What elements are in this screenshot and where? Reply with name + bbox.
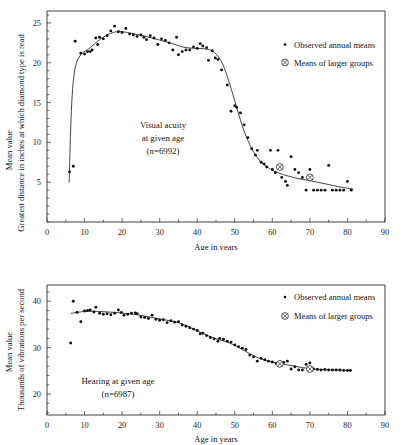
x-tick-label: 20 — [118, 228, 126, 237]
data-point — [126, 313, 129, 316]
data-point — [188, 49, 191, 52]
data-point — [252, 356, 255, 359]
data-point — [222, 338, 225, 341]
data-point — [139, 33, 142, 36]
group-mean-marker — [306, 366, 313, 373]
data-point — [181, 323, 184, 326]
data-point — [123, 314, 126, 317]
data-point — [213, 337, 216, 340]
x-tick-label: 40 — [193, 421, 201, 430]
legend-observed-label-2: Observed annual means — [294, 292, 375, 302]
data-point — [293, 168, 296, 171]
legend-dot-icon-2 — [284, 296, 287, 299]
data-point — [243, 123, 246, 126]
data-point — [199, 42, 202, 45]
annotation-1: Visual acuity at given age (n=6992) — [140, 120, 187, 156]
data-point — [98, 312, 101, 315]
data-point — [235, 106, 238, 109]
data-point — [158, 319, 161, 322]
data-point — [207, 59, 210, 62]
data-point — [308, 362, 311, 365]
data-point — [323, 189, 326, 192]
x-tick-label: 30 — [156, 421, 164, 430]
data-point — [260, 161, 263, 164]
data-point — [86, 309, 89, 312]
data-point — [226, 340, 229, 343]
data-point — [331, 189, 334, 192]
data-point — [320, 189, 323, 192]
fitted-curve-path — [69, 32, 353, 189]
x-tick-label: 60 — [268, 421, 276, 430]
data-point — [301, 176, 304, 179]
hearing-chart-svg: Mean value Thousands of vibrations per s… — [0, 250, 416, 445]
data-point — [166, 321, 169, 324]
data-point — [162, 318, 165, 321]
data-point — [109, 29, 112, 32]
data-point — [308, 168, 311, 171]
data-point — [171, 49, 174, 52]
data-point — [216, 58, 219, 61]
data-point — [209, 336, 212, 339]
data-point — [76, 311, 79, 314]
data-point — [139, 316, 142, 319]
legend-2: Observed annual means Means of larger gr… — [282, 292, 376, 321]
x-tick-label: 50 — [231, 421, 239, 430]
data-point — [175, 36, 178, 39]
fitted-curve-1 — [69, 32, 353, 189]
x-tick-label: 80 — [343, 421, 351, 430]
data-point — [96, 43, 99, 46]
y-tick-label: 20 — [33, 390, 41, 399]
data-point — [271, 361, 274, 364]
data-point — [274, 171, 277, 174]
data-point — [305, 363, 308, 366]
data-point — [220, 68, 223, 71]
y-axis-outer-title-2: Mean value — [4, 332, 14, 373]
data-point — [72, 300, 75, 303]
data-point — [320, 369, 323, 372]
data-point — [237, 345, 240, 348]
data-point — [124, 27, 127, 30]
data-point — [239, 111, 242, 114]
x-tick-label: 0 — [45, 421, 49, 430]
x-tick-label: 80 — [343, 228, 351, 237]
data-point — [327, 164, 330, 167]
data-point — [342, 369, 345, 372]
x-tick-label: 40 — [193, 228, 201, 237]
data-point — [216, 340, 219, 343]
group-mean-marker — [276, 361, 283, 368]
data-point — [143, 316, 146, 319]
data-point — [297, 369, 300, 372]
data-point — [74, 40, 77, 43]
data-point — [331, 369, 334, 372]
data-point — [164, 39, 167, 42]
data-point — [121, 31, 124, 34]
x-tick-label: 70 — [306, 421, 314, 430]
data-point — [246, 136, 249, 139]
y-axis-inner-title-2: Thousands of vibrations per second — [16, 288, 26, 411]
x-axis-title-2: Age in years — [194, 434, 238, 444]
y-tick-label: 40 — [33, 297, 41, 306]
data-point — [284, 180, 287, 183]
data-point — [260, 357, 263, 360]
data-point — [117, 30, 120, 33]
data-point — [94, 306, 97, 309]
y-tick-label: 30 — [33, 344, 41, 353]
data-point — [168, 41, 171, 44]
data-point — [338, 189, 341, 192]
data-point — [211, 49, 214, 52]
data-point — [79, 320, 82, 323]
data-point — [230, 110, 233, 113]
data-point — [72, 165, 75, 168]
data-point — [128, 33, 131, 36]
data-point — [226, 84, 229, 87]
y-axis-outer-title-1: Mean value — [4, 130, 14, 171]
legend-group-label-2: Means of larger groups — [294, 311, 373, 321]
visual-acuity-chart-svg: Mean value Greatest distance in inches a… — [0, 0, 416, 250]
data-point — [271, 168, 274, 171]
data-point — [293, 365, 296, 368]
data-point — [205, 46, 208, 49]
data-point — [153, 37, 156, 40]
y-axis-inner-title-1: Greatest distance in inches at which dia… — [16, 34, 26, 232]
data-point — [83, 53, 86, 56]
data-point — [286, 360, 289, 363]
